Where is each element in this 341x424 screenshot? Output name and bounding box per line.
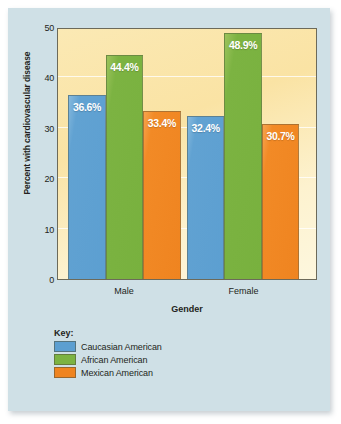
- legend-item: Mexican American: [54, 367, 162, 378]
- y-axis-tick-label: 50: [32, 23, 54, 33]
- bar: 32.4%: [187, 116, 224, 279]
- figure-card: Percent with cardiovascular disease 0102…: [8, 8, 330, 411]
- bar-value-label: 36.6%: [69, 101, 104, 113]
- legend-label: Caucasian American: [81, 342, 162, 352]
- gridline: [58, 76, 316, 77]
- bar-value-label: 33.4%: [144, 117, 179, 129]
- legend-swatch: [54, 354, 76, 365]
- bar-value-label: 30.7%: [263, 130, 298, 142]
- legend-item: African American: [54, 354, 162, 365]
- bar: 33.4%: [143, 111, 180, 279]
- legend: Key: Caucasian AmericanAfrican AmericanM…: [54, 328, 162, 378]
- legend-label: Mexican American: [81, 368, 153, 378]
- bar: 44.4%: [106, 55, 143, 279]
- legend-swatch: [54, 341, 76, 352]
- y-axis-tick-label: 20: [32, 174, 54, 184]
- y-axis-tick-label: 10: [32, 225, 54, 235]
- legend-rows: Caucasian AmericanAfrican AmericanMexica…: [54, 341, 162, 378]
- x-axis-title: Gender: [57, 304, 317, 314]
- bar: 48.9%: [224, 33, 261, 279]
- x-axis-group-label: Male: [114, 286, 134, 296]
- bar: 30.7%: [262, 124, 299, 279]
- y-axis-tick-labels: 01020304050: [28, 28, 54, 280]
- bar-value-label: 32.4%: [188, 122, 223, 134]
- y-axis-tick-label: 30: [32, 124, 54, 134]
- bar-value-label: 44.4%: [107, 61, 142, 73]
- x-axis-group-label: Female: [229, 286, 259, 296]
- legend-item: Caucasian American: [54, 341, 162, 352]
- legend-title: Key:: [54, 328, 162, 338]
- y-axis-tick-label: 40: [32, 73, 54, 83]
- y-axis-tick-label: 0: [32, 275, 54, 285]
- bar-value-label: 48.9%: [225, 39, 260, 51]
- legend-swatch: [54, 367, 76, 378]
- plot-area: 36.6%44.4%33.4%32.4%48.9%30.7%: [57, 28, 317, 280]
- legend-label: African American: [81, 355, 147, 365]
- bar: 36.6%: [68, 95, 105, 279]
